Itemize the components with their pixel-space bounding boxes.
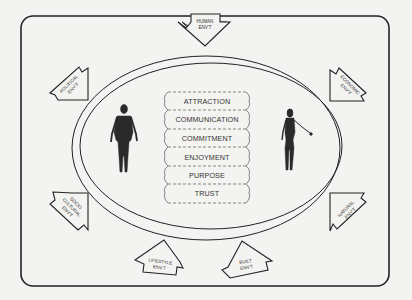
svg-text:ENV'T: ENV'T — [198, 25, 211, 30]
economic-env-arrow: ECONOMIC ENV'T — [330, 68, 366, 101]
factor-communication: COMMUNICATION — [175, 115, 238, 124]
political-env-arrow: POLITICAL ENV'T — [50, 67, 88, 100]
factor-commitment: COMMITMENT — [182, 134, 233, 143]
factor-trust: TRUST — [195, 189, 220, 198]
factor-list — [164, 92, 249, 203]
factor-purpose: PURPOSE — [189, 171, 225, 180]
male-figure-icon — [111, 105, 137, 172]
socio-cultural-env-arrow: SOCIO CULTURAL ENV'T — [50, 192, 88, 230]
human-env-arrow: HUMAN ENV'T — [178, 14, 230, 46]
lifestyle-env-arrow: LIFESTYLE ENV'T — [135, 240, 183, 275]
relationship-environment-diagram: ATTRACTION COMMUNICATION COMMITMENT ENJO… — [0, 0, 412, 300]
female-figure-icon — [282, 109, 312, 170]
svg-text:HUMAN: HUMAN — [197, 19, 214, 24]
built-env-arrow: BUILT ENV'T — [222, 241, 272, 278]
factor-enjoyment: ENJOYMENT — [184, 153, 230, 162]
outer-ellipse — [72, 56, 340, 240]
factor-attraction: ATTRACTION — [184, 97, 230, 106]
natural-env-arrow: NATURAL ENV'T — [330, 193, 366, 231]
